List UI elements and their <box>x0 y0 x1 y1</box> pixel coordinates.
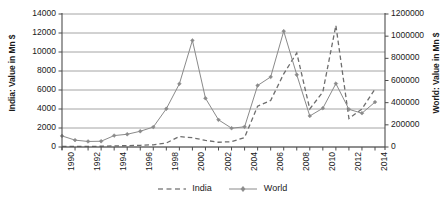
chart-legend: India World <box>0 178 444 196</box>
legend-label-world: World <box>264 183 287 193</box>
legend-item-world: World <box>228 182 287 193</box>
plot-area <box>0 0 444 199</box>
legend-label-india: India <box>192 183 212 193</box>
legend-swatch-world-icon <box>228 183 261 193</box>
y-tick-marks <box>59 14 389 147</box>
legend-item-india: India <box>157 182 212 193</box>
dual-axis-line-chart: India: Value in Mn $ World: Value in Mn … <box>0 0 444 199</box>
legend-swatch-india-icon <box>157 183 190 193</box>
